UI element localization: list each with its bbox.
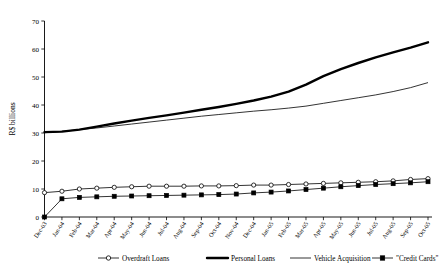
x-tick-label: Jun-04 (137, 220, 152, 238)
plot-area (42, 42, 430, 219)
x-tick-label: Mar-05 (293, 220, 309, 239)
data-point-marker (130, 194, 134, 198)
data-point-marker (95, 186, 99, 190)
y-tick-label: 70 (32, 18, 40, 26)
data-point-marker (95, 195, 99, 199)
data-point-marker (43, 215, 47, 219)
series-line (45, 42, 429, 132)
y-tick-label: 10 (32, 186, 40, 194)
data-point-marker (304, 188, 308, 192)
x-tick-label: Jan-05 (260, 220, 275, 238)
x-tick-label: Nov-04 (223, 220, 239, 240)
x-tick-label: Apr-04 (102, 220, 118, 239)
x-tick-label: May-04 (118, 220, 135, 240)
data-point-marker (321, 181, 325, 185)
data-point-marker (374, 183, 378, 187)
x-tick-label: Aug-05 (380, 220, 396, 240)
y-tick-label: 20 (32, 158, 40, 166)
x-tick-label: Sep-04 (189, 220, 205, 238)
series-personal-loans (45, 42, 429, 132)
data-point-marker (252, 191, 256, 195)
data-point-marker (426, 180, 430, 184)
x-tick-label: Oct-05 (416, 220, 431, 238)
legend-label: Vehicle Acquisition (314, 255, 371, 263)
x-tick-label: Apr-05 (311, 220, 327, 239)
legend-label: Overdraft Loans (122, 255, 170, 263)
line-chart: 010203040506070 Dec-03Jan-04Feb-04Mar-04… (0, 0, 444, 274)
x-tick-label: Dec-04 (241, 220, 257, 239)
x-tick-label: Mar-04 (84, 220, 100, 239)
data-point-marker (199, 184, 203, 188)
data-point-marker (182, 184, 186, 188)
data-point-marker (112, 185, 116, 189)
data-point-marker (77, 187, 81, 191)
data-point-marker (165, 193, 169, 197)
data-point-marker (234, 192, 238, 196)
data-point-marker (409, 181, 413, 185)
data-point-marker (147, 194, 151, 198)
data-point-marker (304, 182, 308, 186)
x-tick-label: Jul-04 (155, 220, 169, 237)
data-point-marker (199, 193, 203, 197)
legend-item[interactable]: Overdraft Loans (98, 255, 170, 263)
data-point-marker (252, 183, 256, 187)
legend-item[interactable]: Vehicle Acquisition (290, 255, 371, 263)
y-tick-label: 50 (32, 74, 40, 82)
data-point-marker (182, 193, 186, 197)
data-point-marker (112, 194, 116, 198)
data-point-marker (77, 195, 81, 199)
x-tick-label: Jun-05 (346, 220, 361, 238)
x-tick-label: Feb-05 (276, 220, 292, 238)
x-tick-label: Jul-05 (365, 220, 379, 237)
legend-symbol (98, 256, 119, 260)
data-point-marker (60, 197, 64, 201)
legend-item[interactable]: "Credit Cards" (372, 255, 438, 263)
data-point-marker (217, 193, 221, 197)
data-point-marker (147, 184, 151, 188)
y-tick-label: 30 (32, 130, 40, 138)
legend-label: Personal Loans (231, 255, 275, 263)
legend-item[interactable]: Personal Loans (207, 255, 275, 263)
x-tick-label: Dec-03 (32, 220, 48, 239)
data-point-marker (356, 184, 360, 188)
data-point-marker (391, 182, 395, 186)
y-tick-label: 0 (36, 214, 40, 222)
y-tick-label: 40 (32, 102, 40, 110)
legend-symbol (372, 256, 393, 260)
x-tick-label: Jan-04 (50, 220, 65, 238)
data-point-marker (234, 184, 238, 188)
y-axis-title-label: R$ billions (8, 102, 17, 135)
data-point-marker (269, 183, 273, 187)
x-tick-label: May-05 (328, 220, 345, 240)
data-point-marker (164, 184, 168, 188)
chart-legend: Overdraft LoansPersonal LoansVehicle Acq… (98, 255, 438, 263)
data-point-marker (287, 189, 291, 193)
x-tick-label: Sep-05 (398, 220, 414, 238)
x-tick-label: Feb-04 (67, 220, 83, 238)
x-tick-label: Aug-04 (171, 220, 187, 240)
data-point-marker (60, 189, 64, 193)
data-point-marker (269, 190, 273, 194)
x-axis: Dec-03Jan-04Feb-04Mar-04Apr-04May-04Jun-… (32, 217, 432, 240)
data-point-marker (217, 184, 221, 188)
data-point-marker (130, 185, 134, 189)
chart-container: 010203040506070 Dec-03Jan-04Feb-04Mar-04… (0, 0, 444, 274)
data-point-marker (42, 191, 46, 195)
data-point-marker (321, 186, 325, 190)
y-axis-title: R$ billions (8, 102, 17, 135)
data-point-marker (339, 181, 343, 185)
x-tick-label: Oct-04 (207, 220, 222, 238)
y-tick-label: 60 (32, 46, 40, 54)
data-point-marker (286, 182, 290, 186)
legend-label: "Credit Cards" (396, 255, 438, 263)
data-point-marker (339, 185, 343, 189)
